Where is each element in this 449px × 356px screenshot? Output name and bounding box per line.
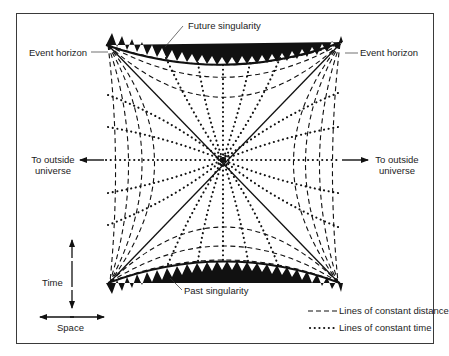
center-point bbox=[220, 157, 226, 163]
legend-dotted-label: Lines of constant time bbox=[339, 322, 431, 333]
future-singularity-label: Future singularity bbox=[188, 20, 261, 31]
outside-right-line2: universe bbox=[370, 165, 424, 176]
legend-samples bbox=[308, 311, 337, 328]
past-singularity-label: Past singularity bbox=[184, 285, 248, 296]
outside-left-line2: universe bbox=[28, 165, 78, 176]
outside-right-line1: To outside bbox=[370, 154, 424, 165]
outside-universe-right-label: To outside universe bbox=[370, 154, 424, 176]
outside-universe-left-label: To outside universe bbox=[28, 154, 78, 176]
event-horizon-left-label: Event horizon bbox=[29, 47, 87, 58]
outside-left-line1: To outside bbox=[28, 154, 78, 165]
time-axis-label: Time bbox=[42, 277, 63, 288]
space-axis-label: Space bbox=[57, 322, 84, 333]
legend-dashed-label: Lines of constant distance bbox=[339, 305, 449, 316]
event-horizon-right-label: Event horizon bbox=[360, 47, 418, 58]
